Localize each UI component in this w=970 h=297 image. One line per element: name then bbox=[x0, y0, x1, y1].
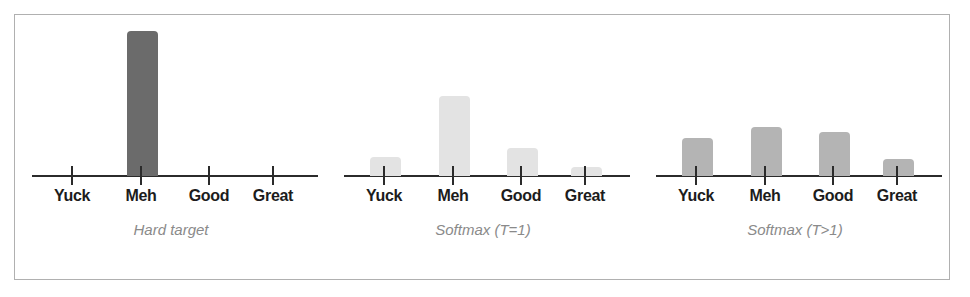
plot-area bbox=[15, 15, 327, 185]
x-label-meh: Meh bbox=[749, 187, 780, 205]
x-tick-yuck bbox=[695, 166, 697, 185]
x-label-great: Great bbox=[877, 187, 917, 205]
x-tick-good bbox=[832, 166, 834, 185]
x-label-good: Good bbox=[501, 187, 542, 205]
x-tick-great bbox=[272, 166, 274, 185]
x-tick-labels: Yuck Meh Good Great bbox=[15, 187, 327, 213]
x-label-good: Good bbox=[189, 187, 230, 205]
chart-panel-hard-target: Yuck Meh Good Great Hard target bbox=[15, 15, 327, 281]
bar-good[interactable] bbox=[819, 132, 850, 176]
chart-panel-softmax-t-gt-1: Yuck Meh Good Great Softmax (T>1) bbox=[639, 15, 951, 281]
x-label-meh: Meh bbox=[437, 187, 468, 205]
bar-great[interactable] bbox=[571, 167, 602, 176]
x-label-meh: Meh bbox=[125, 187, 156, 205]
x-tick-good bbox=[208, 166, 210, 185]
x-tick-meh bbox=[140, 166, 142, 185]
x-label-yuck: Yuck bbox=[54, 187, 90, 205]
bar-great[interactable] bbox=[883, 159, 914, 176]
x-tick-labels: Yuck Meh Good Great bbox=[327, 187, 639, 213]
figure-frame: Yuck Meh Good Great Hard target Yuck bbox=[14, 14, 950, 280]
x-tick-yuck bbox=[71, 166, 73, 185]
x-tick-great bbox=[896, 166, 898, 185]
x-label-yuck: Yuck bbox=[366, 187, 402, 205]
x-tick-yuck bbox=[383, 166, 385, 185]
x-tick-great bbox=[584, 166, 586, 185]
x-label-yuck: Yuck bbox=[678, 187, 714, 205]
figure-canvas: Yuck Meh Good Great Hard target Yuck bbox=[0, 0, 970, 297]
x-label-good: Good bbox=[813, 187, 854, 205]
bar-yuck[interactable] bbox=[370, 157, 401, 176]
x-tick-meh bbox=[452, 166, 454, 185]
panel-caption: Hard target bbox=[15, 221, 327, 238]
x-tick-good bbox=[520, 166, 522, 185]
bar-yuck[interactable] bbox=[682, 138, 713, 176]
bar-meh[interactable] bbox=[127, 31, 158, 176]
chart-panel-softmax-t1: Yuck Meh Good Great Softmax (T=1) bbox=[327, 15, 639, 281]
bar-meh[interactable] bbox=[751, 127, 782, 176]
x-label-great: Great bbox=[253, 187, 293, 205]
bar-good[interactable] bbox=[507, 148, 538, 176]
x-label-great: Great bbox=[565, 187, 605, 205]
x-tick-labels: Yuck Meh Good Great bbox=[639, 187, 951, 213]
plot-area bbox=[327, 15, 639, 185]
bar-meh[interactable] bbox=[439, 96, 470, 176]
x-axis-line bbox=[32, 175, 318, 177]
panel-caption: Softmax (T>1) bbox=[639, 221, 951, 238]
plot-area bbox=[639, 15, 951, 185]
x-tick-meh bbox=[764, 166, 766, 185]
panel-caption: Softmax (T=1) bbox=[327, 221, 639, 238]
